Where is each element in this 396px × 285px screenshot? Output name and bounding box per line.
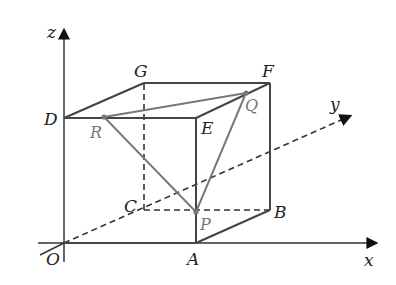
label-G: G <box>134 61 148 81</box>
label-z: z <box>46 22 57 42</box>
point-R-dot <box>101 114 106 119</box>
cube-diagram: z x y O A B C D E F G R Q P <box>0 0 396 285</box>
label-B: B <box>273 202 287 222</box>
label-C: C <box>124 196 137 216</box>
point-P-dot <box>193 209 198 214</box>
label-O: O <box>46 249 60 269</box>
point-Q-dot <box>243 90 248 95</box>
label-R: R <box>89 123 102 142</box>
label-D: D <box>43 109 58 129</box>
label-F: F <box>261 61 275 81</box>
label-x: x <box>364 250 374 270</box>
label-y: y <box>329 94 340 114</box>
label-A: A <box>185 249 199 269</box>
label-Q: Q <box>245 96 258 115</box>
label-E: E <box>200 118 214 138</box>
label-P: P <box>199 215 211 234</box>
